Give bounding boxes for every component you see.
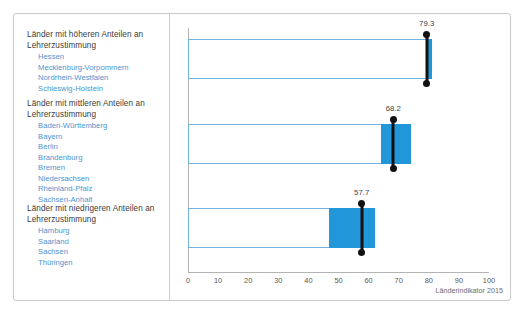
value-marker xyxy=(360,203,363,253)
value-marker xyxy=(425,34,428,84)
tick-label: 10 xyxy=(214,276,222,285)
bar-range-outline xyxy=(188,124,411,164)
legend-group-low: Länder mit niedrigeren Anteilen an Lehre… xyxy=(27,204,169,268)
list-item: Sachsen xyxy=(38,247,169,258)
tick-label: 20 xyxy=(244,276,252,285)
tick-label: 0 xyxy=(186,276,190,285)
bar-row: 57.7 xyxy=(170,208,510,248)
list-item: Hessen xyxy=(38,52,169,63)
list-item: Thüringen xyxy=(38,258,169,269)
tick-label: 80 xyxy=(425,276,433,285)
bar-row: 79.3 xyxy=(170,39,510,79)
list-item: Mecklenburg-Vorpommern xyxy=(38,63,169,74)
value-label: 79.3 xyxy=(419,19,434,28)
plot-area: 0102030405060708090100 79.368.257.7 xyxy=(170,14,510,300)
state-list: Baden-Württemberg Bayern Berlin Brandenb… xyxy=(27,121,169,205)
tick-label: 90 xyxy=(455,276,463,285)
bar-fill-segment xyxy=(381,124,411,164)
list-item: Niedersachsen xyxy=(38,174,169,185)
bar-range-outline xyxy=(188,39,432,79)
source-note: Länderindikator 2015 xyxy=(435,286,503,295)
value-marker xyxy=(392,119,395,169)
list-item: Bremen xyxy=(38,163,169,174)
legend-group-middle: Länder mit mittleren Anteilen an Lehrerz… xyxy=(27,99,169,205)
list-item: Hamburg xyxy=(38,226,169,237)
list-item: Nordrhein-Westfalen xyxy=(38,73,169,84)
state-list: Hessen Mecklenburg-Vorpommern Nordrhein-… xyxy=(27,52,169,94)
list-item: Brandenburg xyxy=(38,153,169,164)
list-item: Baden-Württemberg xyxy=(38,121,169,132)
value-label: 68.2 xyxy=(386,104,401,113)
tick-label: 60 xyxy=(364,276,372,285)
list-item: Schleswig-Holstein xyxy=(38,84,169,95)
list-item: Rheinland-Pfalz xyxy=(38,184,169,195)
chart-figure: Länder mit höheren Anteilen an Lehrerzus… xyxy=(13,13,511,301)
group-heading: Länder mit mittleren Anteilen an Lehrerz… xyxy=(27,99,169,120)
tick-label: 50 xyxy=(334,276,342,285)
legend-column: Länder mit höheren Anteilen an Lehrerzus… xyxy=(14,14,170,300)
list-item: Bayern xyxy=(38,132,169,143)
group-heading: Länder mit niedrigeren Anteilen an Lehre… xyxy=(27,204,169,225)
group-heading: Länder mit höheren Anteilen an Lehrerzus… xyxy=(27,30,169,51)
tick-label: 70 xyxy=(395,276,403,285)
tick-label: 30 xyxy=(274,276,282,285)
tick-label: 100 xyxy=(483,276,495,285)
tick-label: 40 xyxy=(304,276,312,285)
list-item: Saarland xyxy=(38,237,169,248)
legend-group-high: Länder mit höheren Anteilen an Lehrerzus… xyxy=(27,30,169,94)
bar-row: 68.2 xyxy=(170,124,510,164)
x-axis-line xyxy=(188,272,489,273)
state-list: Hamburg Saarland Sachsen Thüringen xyxy=(27,226,169,268)
bar-fill-segment xyxy=(329,208,374,248)
value-label: 57.7 xyxy=(354,188,369,197)
list-item: Berlin xyxy=(38,142,169,153)
